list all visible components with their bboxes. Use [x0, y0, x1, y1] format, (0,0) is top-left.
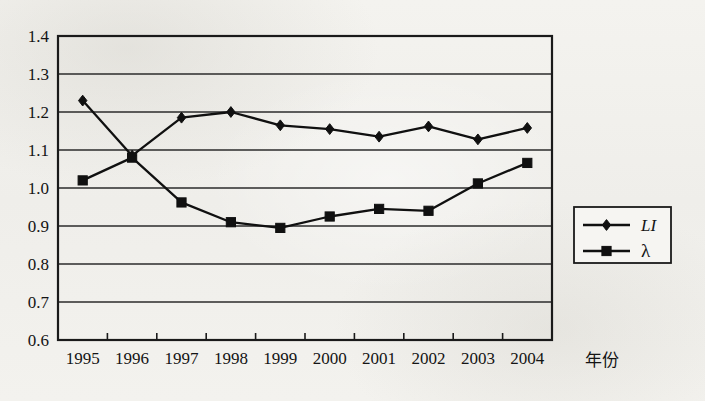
- y-tick-label: 1.2: [28, 103, 49, 122]
- y-tick-label: 0.8: [28, 255, 49, 274]
- data-point-marker-diamond: [325, 124, 333, 135]
- chart-legend: LIλ: [574, 207, 671, 263]
- data-point-marker-square: [177, 198, 186, 207]
- y-tick-label: 0.9: [28, 217, 49, 236]
- y-tick-label: 0.6: [28, 331, 49, 350]
- data-point-marker-diamond: [227, 107, 235, 118]
- data-point-marker-square: [602, 246, 611, 255]
- y-tick-label: 0.7: [28, 293, 50, 312]
- x-tick-label: 1999: [263, 349, 297, 368]
- data-point-marker-square: [325, 212, 334, 221]
- data-point-marker-diamond: [523, 123, 531, 134]
- data-point-marker-square: [375, 204, 384, 213]
- data-point-marker-diamond: [474, 134, 482, 145]
- series-lambda: [78, 153, 532, 233]
- series-line: [83, 101, 528, 156]
- legend-label: λ: [641, 240, 651, 261]
- data-point-marker-square: [523, 158, 532, 167]
- data-point-marker-diamond: [276, 120, 284, 131]
- data-point-marker-square: [226, 218, 235, 227]
- data-point-marker-diamond: [424, 121, 432, 132]
- data-point-marker-diamond: [375, 131, 383, 142]
- data-series-layer: [78, 95, 532, 232]
- x-tick-label: 1996: [115, 349, 149, 368]
- y-tick-label: 1.1: [28, 141, 49, 160]
- y-tick-label: 1.4: [28, 27, 50, 46]
- x-axis-title: 年份: [585, 351, 619, 370]
- data-point-marker-square: [128, 153, 137, 162]
- x-tick-label: 2001: [362, 349, 396, 368]
- y-tick-label: 1.0: [28, 179, 49, 198]
- y-axis-tick-labels: 1.41.31.21.11.00.90.80.70.6: [28, 27, 50, 350]
- data-point-marker-square: [276, 223, 285, 232]
- series-li: [78, 95, 531, 161]
- x-axis-tick-labels: 1995199619971998199920002001200220032004: [66, 349, 545, 368]
- data-point-marker-square: [78, 176, 87, 185]
- x-tick-label: 1998: [214, 349, 248, 368]
- legend-label: LI: [640, 216, 657, 235]
- x-tick-label: 1997: [165, 349, 200, 368]
- x-tick-label: 2003: [461, 349, 495, 368]
- chart-canvas: 1.41.31.21.11.00.90.80.70.6 199519961997…: [0, 0, 705, 401]
- data-point-marker-diamond: [177, 112, 185, 123]
- y-tick-label: 1.3: [28, 65, 49, 84]
- series-line: [83, 158, 528, 228]
- x-tick-label: 2004: [510, 349, 545, 368]
- line-chart: 1.41.31.21.11.00.90.80.70.6 199519961997…: [0, 0, 705, 401]
- x-tick-label: 2002: [412, 349, 446, 368]
- x-tick-label: 1995: [66, 349, 100, 368]
- data-point-marker-square: [473, 179, 482, 188]
- x-tick-label: 2000: [313, 349, 347, 368]
- legend-box: [574, 207, 671, 263]
- data-point-marker-square: [424, 206, 433, 215]
